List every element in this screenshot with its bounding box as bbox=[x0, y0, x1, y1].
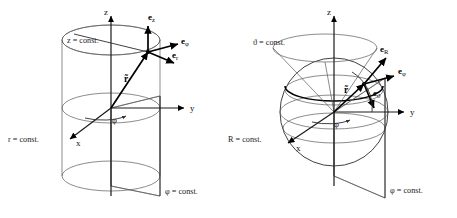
unit-vector-e-phi: eφ bbox=[148, 36, 189, 52]
label-phi-const: φ = const. bbox=[165, 187, 198, 196]
panel-cylindrical: z y x r̃ bbox=[8, 7, 198, 196]
coordinate-systems-figure: z y x r̃ bbox=[0, 0, 457, 218]
label-z-const: z = const. bbox=[67, 36, 99, 45]
label-r-const: r = const. bbox=[8, 135, 39, 144]
position-vector-label-sphere: r̃ bbox=[344, 85, 349, 95]
unit-vector-label-e-z: ez bbox=[148, 12, 155, 23]
unit-vector-label-e-r: er bbox=[172, 50, 179, 61]
axis-label-x-sphere: x bbox=[296, 143, 301, 153]
axis-label-z: z bbox=[104, 7, 108, 17]
label-phi-const-sphere: φ = const. bbox=[390, 186, 423, 195]
axis-label-z-sphere: z bbox=[327, 7, 331, 17]
label-theta-const: ϑ = const. bbox=[253, 38, 285, 47]
axis-label-y: y bbox=[190, 103, 195, 113]
panel-spherical: z y x r̃ eR bbox=[228, 7, 423, 198]
axis-z: z bbox=[104, 7, 111, 196]
label-R-const: R = const. bbox=[228, 135, 262, 144]
axis-y: y bbox=[111, 103, 195, 113]
axis-label-y-sphere: y bbox=[410, 107, 415, 117]
figure-container: z y x r̃ bbox=[0, 0, 457, 218]
axis-label-x: x bbox=[76, 138, 81, 148]
unit-vector-label-e-phi-sphere: eφ bbox=[398, 66, 406, 77]
unit-vector-label-e-R: eR bbox=[380, 44, 389, 55]
surface-phi-const bbox=[111, 96, 160, 196]
axis-x: x bbox=[70, 108, 111, 148]
unit-vector-e-r: er bbox=[148, 50, 179, 63]
unit-vector-label-e-phi: eφ bbox=[181, 36, 189, 47]
angle-phi-label-sphere: φ bbox=[334, 119, 339, 129]
unit-vector-label-e-theta: eϑ bbox=[373, 88, 381, 99]
axis-y-sphere: y bbox=[334, 107, 415, 117]
angle-phi-arc-sphere: φ bbox=[312, 119, 350, 129]
position-vector-r: r̃ bbox=[111, 52, 148, 108]
angle-phi-label: φ bbox=[112, 115, 117, 125]
unit-vector-e-z: ez bbox=[148, 12, 155, 52]
position-vector-r-sphere: r̃ bbox=[334, 84, 364, 112]
